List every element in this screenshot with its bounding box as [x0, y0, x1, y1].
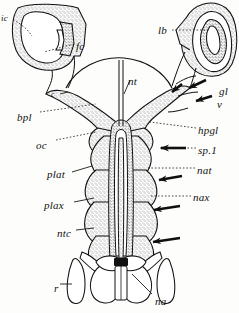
arrow-nax-1	[159, 176, 182, 180]
leader-plat	[72, 166, 92, 172]
label-ic: ic	[1, 14, 8, 23]
neural-canal-groove	[115, 266, 127, 300]
label-hpgl: hpgl	[198, 125, 218, 136]
label-lb: lb	[158, 25, 167, 36]
label-fc: fc	[76, 41, 84, 52]
leader-hpgl	[150, 122, 196, 128]
neural-canal-dark	[114, 258, 128, 266]
anatomical-figure: icfclbntcglvbplhpglocsp.1natplatnaxplaxn…	[0, 0, 239, 313]
label-nat: nat	[197, 165, 212, 176]
arrow-v	[196, 96, 212, 101]
notochordal-canal	[109, 120, 134, 262]
label-v: v	[217, 99, 222, 110]
right-otic-capsule	[176, 3, 237, 76]
label-gl: gl	[219, 86, 228, 97]
arrow-nax-2	[154, 206, 180, 210]
label-bpl: bpl	[17, 112, 32, 123]
label-sp1: sp.1	[198, 145, 217, 156]
illustration-canvas	[0, 0, 239, 313]
label-oc: oc	[36, 140, 47, 151]
label-r: r	[54, 283, 58, 294]
label-plax: plax	[44, 200, 64, 211]
arrow-nax-3	[153, 238, 180, 242]
label-na: na	[155, 296, 166, 307]
label-nt: nt	[128, 76, 137, 87]
label-c: c	[51, 91, 55, 99]
label-ntc: ntc	[57, 228, 71, 239]
notochord-line	[119, 60, 123, 126]
label-plat: plat	[47, 169, 65, 180]
label-nax: nax	[193, 192, 209, 203]
